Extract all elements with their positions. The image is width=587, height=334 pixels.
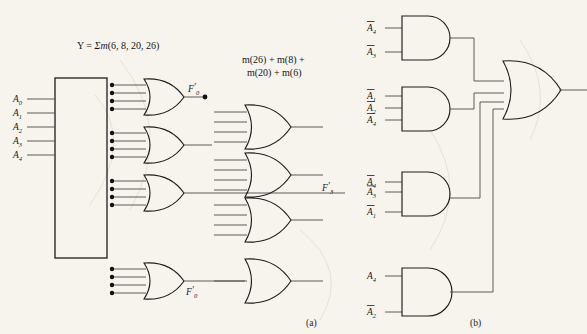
caption-b: (b) bbox=[470, 318, 481, 329]
title-equation: Y = Σm(6, 8, 20, 26) bbox=[77, 40, 159, 52]
circuit-diagram-svg: Y = Σm(6, 8, 20, 26) Y = Σm(6, 8, 20, 26… bbox=[0, 0, 587, 334]
f0-output-dot bbox=[203, 95, 208, 100]
minterm-note-line2: m(20) + m(6) bbox=[247, 67, 302, 79]
and-gate-2-input-labels: A1 A2 A4 bbox=[366, 90, 377, 127]
caption-a: (a) bbox=[306, 318, 317, 329]
figure-canvas: Y = Σm(6, 8, 20, 26) Y = Σm(6, 8, 20, 26… bbox=[0, 0, 587, 334]
minterm-note-line1: m(26) + m(8) + bbox=[242, 54, 305, 66]
